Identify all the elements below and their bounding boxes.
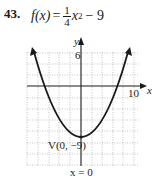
curve-arrow-left-icon xyxy=(30,47,37,56)
graph: y 6 10 x V(0, −9) x = 0 xyxy=(0,0,160,185)
axes xyxy=(27,41,145,166)
x-tick-label: 10 xyxy=(128,87,140,99)
y-axis-label: y xyxy=(73,35,79,47)
y-axis-arrow-icon xyxy=(78,37,84,45)
axis-of-symmetry-label: x = 0 xyxy=(70,166,93,178)
curve-arrow-right-icon xyxy=(125,47,132,56)
x-axis-label: x xyxy=(146,84,152,96)
vertex-label: V(0, −9) xyxy=(48,139,86,152)
x-axis-arrow-icon xyxy=(140,83,147,89)
y-tick-label: 6 xyxy=(75,49,81,61)
